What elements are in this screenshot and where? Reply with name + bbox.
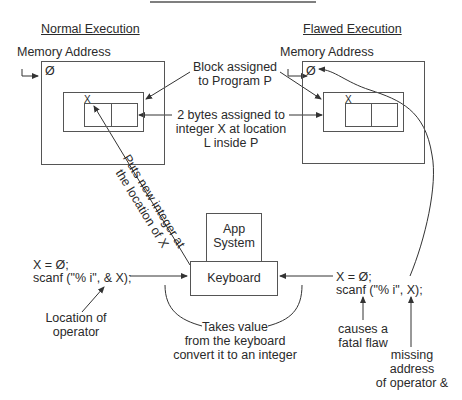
normal-code-line1: X = Ø; — [33, 258, 69, 272]
bytes-assigned-line2: integer X at location — [172, 122, 290, 136]
flawed-execution-heading: Flawed Execution — [303, 22, 402, 36]
keyboard-note-line1: Takes value — [160, 320, 310, 334]
normal-zero-symbol: Ø — [45, 64, 55, 78]
keyboard-note-line3: convert it to an integer — [160, 348, 310, 362]
location-operator-note: Location of operator — [40, 311, 112, 339]
app-system-label: App System — [206, 222, 262, 250]
fatal-flaw-line1: causes a — [330, 322, 396, 336]
normal-code-line2: scanf ("% i", & X); — [33, 271, 131, 285]
app-system-line1: App — [206, 222, 262, 236]
flawed-memory-address-label: Memory Address — [280, 45, 374, 59]
location-operator-line1: Location of — [40, 311, 112, 325]
keyboard-note-line2: from the keyboard — [160, 334, 310, 348]
flawed-zero-symbol: Ø — [306, 64, 316, 78]
keyboard-label: Keyboard — [190, 271, 278, 285]
block-assigned-line2: to Program P — [185, 74, 285, 88]
flawed-code-line1: X = Ø; — [336, 270, 372, 284]
missing-address-line2: address — [370, 362, 454, 376]
fatal-flaw-note: causes a fatal flaw — [330, 322, 396, 350]
flawed-cell-divider — [371, 103, 372, 127]
bytes-assigned-line1: 2 bytes assigned to — [172, 108, 290, 122]
normal-cell-divider — [111, 103, 112, 127]
bytes-assigned-line3: L inside P — [172, 136, 290, 150]
bytes-assigned-callout: 2 bytes assigned to integer X at locatio… — [172, 108, 290, 150]
memory-pointer-arrow-left — [22, 69, 38, 76]
app-system-line2: System — [206, 236, 262, 250]
block-assigned-callout: Block assigned to Program P — [185, 60, 285, 88]
block-assigned-line1: Block assigned — [185, 60, 285, 74]
keyboard-note: Takes value from the keyboard convert it… — [160, 320, 310, 362]
missing-address-note: missing address of operator & — [370, 348, 454, 390]
location-operator-line2: operator — [40, 325, 112, 339]
missing-address-line1: missing — [370, 348, 454, 362]
flawed-code-line2: scanf ("% i", X); — [336, 283, 423, 297]
location-operator-arrow — [82, 287, 104, 312]
normal-execution-heading: Normal Execution — [41, 22, 140, 36]
normal-memory-address-label: Memory Address — [17, 45, 111, 59]
missing-address-line3: of operator & — [370, 376, 454, 390]
